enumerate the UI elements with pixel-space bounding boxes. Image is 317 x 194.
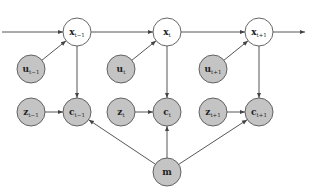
- edge-m-to-c_tm1: [89, 120, 156, 164]
- graphical-model-diagram: xt−1xtxt+1ut−1utut+1zt−1ztzt+1ct−1ctct+1…: [0, 0, 317, 194]
- node-label: m: [162, 167, 172, 177]
- node-z_t: zt: [107, 98, 135, 126]
- node-x_tm1: xt−1: [63, 18, 91, 46]
- edge-u_tm1-to-x_tm1: [42, 41, 66, 60]
- node-x_t: xt: [153, 18, 181, 46]
- node-u_tm1: ut−1: [17, 55, 45, 83]
- edge-u_tp1-to-x_tp1: [224, 41, 248, 60]
- node-c_tp1: ct+1: [245, 98, 273, 126]
- node-x_tp1: xt+1: [245, 18, 273, 46]
- node-m: m: [153, 158, 181, 186]
- node-u_t: ut: [107, 55, 135, 83]
- node-z_tm1: zt−1: [17, 98, 45, 126]
- node-c_tm1: ct−1: [63, 98, 91, 126]
- edge-u_t-to-x_t: [132, 41, 156, 60]
- node-u_tp1: ut+1: [199, 55, 227, 83]
- node-c_t: ct: [153, 98, 181, 126]
- node-z_tp1: zt+1: [199, 98, 227, 126]
- nodes: xt−1xtxt+1ut−1utut+1zt−1ztzt+1ct−1ctct+1…: [17, 18, 273, 186]
